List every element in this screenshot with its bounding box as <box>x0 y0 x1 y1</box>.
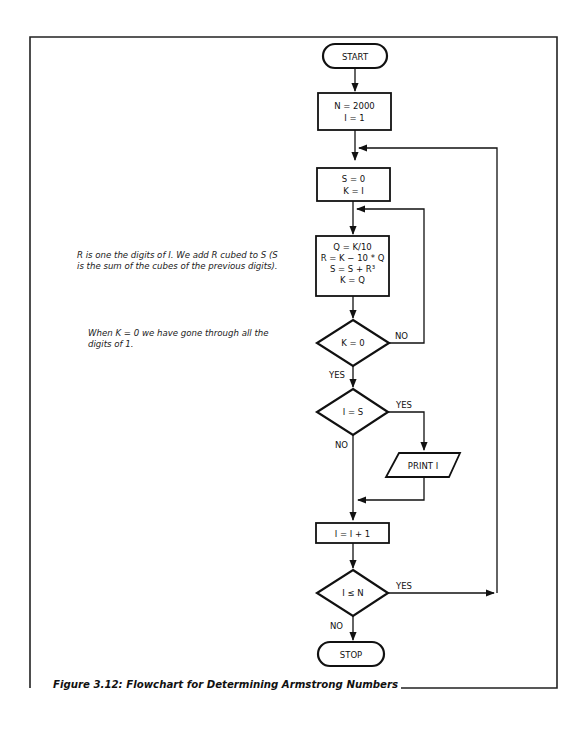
k-zero-annotation: When K = 0 we have gone through all the … <box>88 328 269 350</box>
i-le-n-yes-label: YES <box>395 581 412 591</box>
reset-process-box: S = 0 K = I <box>317 168 390 201</box>
flowchart-figure: START N = 2000 I = 1 S = 0 K = I Q = K/1… <box>0 0 582 731</box>
increment-process-box: I = I + 1 <box>316 523 389 543</box>
i-le-n-decision: I ≤ N <box>317 570 388 616</box>
digit-annotation-line-1: R is one the digits of I. We add R cubed… <box>77 250 278 261</box>
reset-line-1: S = 0 <box>342 174 365 184</box>
init-line-1: N = 2000 <box>334 101 375 111</box>
i-equals-s-yes-label: YES <box>395 400 412 410</box>
init-process-box: N = 2000 I = 1 <box>318 93 391 130</box>
print-io-box: PRINT I <box>386 453 460 477</box>
i-le-n-label: I ≤ N <box>342 588 363 598</box>
digit-line-2: R = K − 10 * Q <box>321 253 385 263</box>
digit-process-box: Q = K/10 R = K − 10 * Q S = S + R³ K = Q <box>316 236 389 296</box>
stop-label: STOP <box>340 650 362 660</box>
digit-line-1: Q = K/10 <box>333 242 371 252</box>
k-zero-decision: K = 0 <box>317 320 389 366</box>
i-le-n-no-label: NO <box>330 621 343 631</box>
increment-label: I = I + 1 <box>335 529 370 539</box>
init-line-2: I = 1 <box>344 113 364 123</box>
k-zero-no-label: NO <box>395 331 408 341</box>
flowchart-canvas: START N = 2000 I = 1 S = 0 K = I Q = K/1… <box>0 0 582 731</box>
k-zero-annotation-line-1: When K = 0 we have gone through all the <box>88 328 269 339</box>
stop-terminal: STOP <box>318 642 384 666</box>
start-label: START <box>342 52 369 62</box>
digit-annotation: R is one the digits of I. We add R cubed… <box>77 250 278 272</box>
k-zero-label: K = 0 <box>341 338 365 348</box>
start-terminal: START <box>323 44 387 68</box>
k-zero-yes-label: YES <box>328 370 345 380</box>
i-equals-s-no-label: NO <box>335 440 348 450</box>
figure-frame <box>30 37 557 688</box>
i-equals-s-decision: I = S <box>317 389 388 435</box>
i-equals-s-label: I = S <box>343 407 363 417</box>
figure-caption: Figure 3.12: Flowchart for Determining A… <box>50 679 401 690</box>
digit-annotation-line-2: is the sum of the cubes of the previous … <box>77 261 278 272</box>
reset-line-2: K = I <box>343 186 364 196</box>
k-zero-annotation-line-2: digits of 1. <box>88 339 269 350</box>
print-label: PRINT I <box>408 461 438 471</box>
digit-line-4: K = Q <box>340 275 365 285</box>
digit-line-3: S = S + R³ <box>330 264 375 274</box>
